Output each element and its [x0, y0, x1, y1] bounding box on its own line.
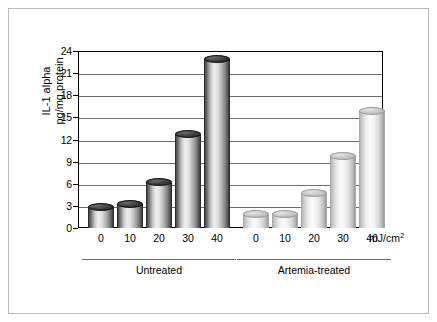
bar-dark-0: [88, 203, 114, 228]
bar-light-10: [272, 210, 298, 228]
bar-dark-20: [146, 178, 172, 228]
y-tick-label: 24: [46, 46, 72, 57]
y-tick-label: 21: [46, 68, 72, 79]
bar-body: [175, 134, 201, 228]
bar-body: [359, 111, 385, 228]
y-tick-label: 0: [46, 223, 72, 234]
group-rule: [82, 259, 236, 260]
group-label: Artemia-treated: [237, 265, 391, 276]
figure-root: IL-1 alpha pg/mg protein 03691215182124 …: [0, 0, 437, 322]
y-tick-label: 6: [46, 179, 72, 190]
bar-light-40: [359, 107, 385, 228]
bar-body: [330, 156, 356, 228]
bar-cap: [88, 203, 114, 211]
bar-light-30: [330, 152, 356, 228]
bar-cap: [175, 130, 201, 138]
y-tick-label: 12: [46, 134, 72, 145]
bar-cap: [243, 210, 269, 218]
bars-layer: [78, 51, 383, 228]
bar-light-0: [243, 210, 269, 228]
y-tick-label: 3: [46, 201, 72, 212]
group-rule: [237, 259, 391, 260]
y-tick-label: 9: [46, 156, 72, 167]
bar-cap: [272, 210, 298, 218]
units-text: mJ/cm: [369, 232, 400, 244]
units-exponent: 2: [400, 231, 404, 240]
bar-light-20: [301, 189, 327, 228]
bar-dark-40: [204, 55, 230, 228]
bar-cap: [359, 107, 385, 115]
bar-cap: [117, 200, 143, 208]
bar-dark-30: [175, 130, 201, 228]
x-tick-label: 40: [197, 233, 237, 244]
group-label: Untreated: [82, 265, 236, 276]
bar-body: [146, 182, 172, 228]
y-tick-mark: [73, 228, 78, 229]
bar-dark-10: [117, 200, 143, 228]
y-tick-label: 18: [46, 90, 72, 101]
x-axis-units-label: mJ/cm2: [369, 233, 404, 244]
bar-body: [301, 193, 327, 228]
bar-body: [204, 59, 230, 228]
y-tick-label: 15: [46, 112, 72, 123]
